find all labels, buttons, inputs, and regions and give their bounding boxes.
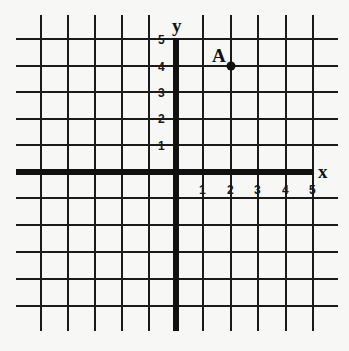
y-tick-label: 1 [158,139,165,153]
y-tick-label: 3 [158,86,165,100]
x-tick-label: 1 [199,183,206,197]
x-tick-label: 5 [309,183,316,197]
y-tick-label: 4 [158,60,165,74]
y-axis-label: y [172,15,182,36]
y-tick-label: 5 [158,33,165,47]
x-axis-label: x [318,161,328,182]
point-a-label: A [212,45,226,66]
x-tick-label: 3 [254,183,261,197]
x-tick-label: 2 [227,183,234,197]
x-tick-label: 4 [282,183,289,197]
point-a-marker [227,62,236,71]
coordinate-plane: x y 1 2 3 4 5 1 2 3 4 5 A [0,0,349,351]
y-tick-label: 2 [158,112,165,126]
